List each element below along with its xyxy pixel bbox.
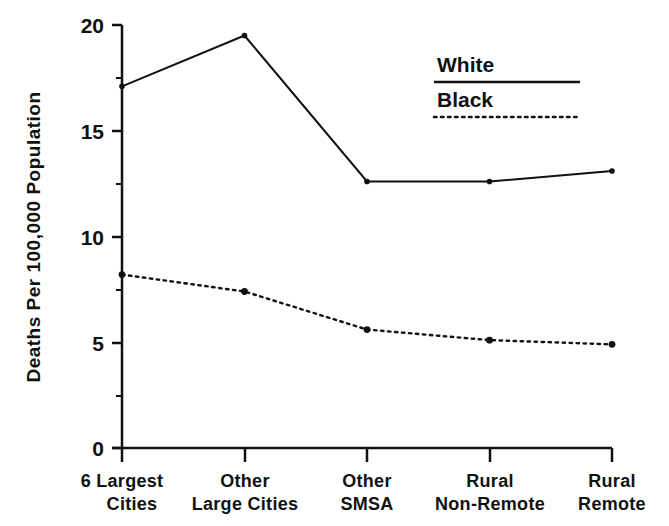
data-point [242,33,248,39]
data-point [487,179,493,185]
data-point [364,179,370,185]
x-label-0-line1: 6 Largest [81,471,164,491]
data-point [609,168,615,174]
chart-container: Deaths Per 100,000 Population 20 15 10 5… [0,0,669,526]
y-tick-label-15: 15 [81,120,105,143]
data-point [486,337,493,344]
x-label-3-line1: Rural [466,471,514,491]
line-chart: Deaths Per 100,000 Population 20 15 10 5… [0,0,669,526]
y-tick-label-0: 0 [92,437,104,460]
series-line-black [122,275,612,345]
data-point [119,84,125,90]
legend-label-white: White [437,53,494,76]
y-tick-label-10: 10 [81,226,104,249]
x-label-2-line1: Other [342,471,392,491]
data-point [364,326,371,333]
y-tick-label-5: 5 [92,332,104,355]
legend: White Black [434,53,580,117]
data-point [241,288,248,295]
x-label-4-line1: Rural [588,471,636,491]
series-points-white [119,33,615,185]
x-label-1-line2: Large Cities [192,494,299,514]
x-label-1-line1: Other [220,471,270,491]
x-label-0-line2: Cities [107,494,158,514]
legend-label-black: Black [437,88,493,111]
data-point [609,341,616,348]
x-label-4-line2: Remote [578,494,646,514]
y-tick-label-20: 20 [81,14,104,37]
x-label-3-line2: Non-Remote [435,494,545,514]
series-points-black [119,271,616,348]
series-line-white [122,36,612,182]
y-axis-title: Deaths Per 100,000 Population [23,91,44,382]
data-point [119,271,126,278]
x-label-2-line2: SMSA [340,494,393,514]
